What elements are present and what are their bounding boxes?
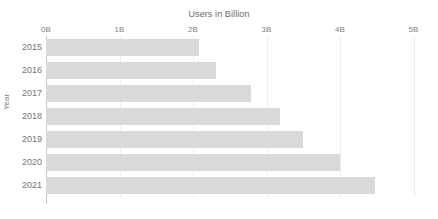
bar-2020 [46, 154, 340, 171]
bar-row [46, 151, 414, 174]
bar-2017 [46, 85, 251, 102]
bar-2015 [46, 39, 199, 56]
y-tick-label-2016: 2016 [22, 65, 42, 75]
chart-title-text: Users in Billion [188, 9, 249, 19]
plot-area [46, 36, 414, 197]
y-tick-label-2019: 2019 [22, 134, 42, 144]
bar-row [46, 174, 414, 197]
x-tick-label-0B: 0B [41, 25, 51, 34]
bar-chart: Users in Billion Year 0B1B2B3B4B5B 20152… [0, 0, 438, 219]
bar-2021 [46, 177, 375, 194]
bar-row [46, 59, 414, 82]
bar-2018 [46, 108, 280, 125]
bar-row [46, 128, 414, 151]
x-tick-label-5B: 5B [409, 25, 419, 34]
bar-row [46, 105, 414, 128]
bar-row [46, 82, 414, 105]
bar-2019 [46, 131, 303, 148]
x-tick-label-3B: 3B [262, 25, 272, 34]
x-tick-label-4B: 4B [335, 25, 345, 34]
y-tick-label-2020: 2020 [22, 157, 42, 167]
x-tick-label-1B: 1B [115, 25, 125, 34]
x-tick-label-2B: 2B [188, 25, 198, 34]
y-axis-tick-labels: 2015201620172018201920202021 [0, 36, 42, 197]
y-tick-label-2021: 2021 [22, 180, 42, 190]
y-tick-label-2018: 2018 [22, 111, 42, 121]
bar-row [46, 36, 414, 59]
chart-title: Users in Billion [0, 9, 438, 19]
y-tick-label-2015: 2015 [22, 42, 42, 52]
bar-2016 [46, 62, 216, 79]
y-tick-label-2017: 2017 [22, 88, 42, 98]
